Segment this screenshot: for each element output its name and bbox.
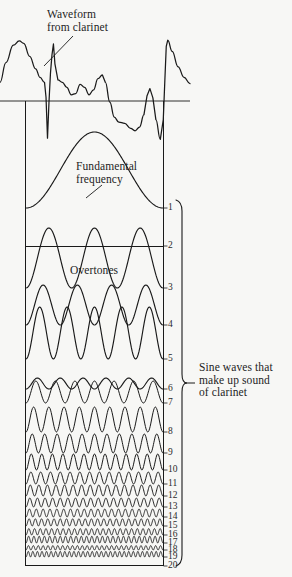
harmonic-wave-13 <box>26 498 163 507</box>
clarinet-harmonics-figure: Waveform from clarinet Fundamental frequ… <box>0 0 292 577</box>
overtones-annotation-label: Overtones <box>70 264 118 277</box>
harmonic-wave-7 <box>26 381 163 403</box>
fundamental-annotation-label: Fundamental frequency <box>76 160 137 185</box>
harmonic-wave-12 <box>26 485 163 496</box>
harmonic-wave-6 <box>26 378 163 389</box>
harmonic-number-1: 1 <box>168 202 173 212</box>
harmonic-number-4: 4 <box>168 319 173 329</box>
harmonic-wave-19 <box>26 551 163 557</box>
harmonic-number-13: 13 <box>168 501 178 511</box>
harmonic-wave-11 <box>26 472 163 484</box>
harmonic-wave-14 <box>26 509 163 517</box>
fundamental-leader-line <box>86 185 102 198</box>
harmonic-wave-9 <box>26 434 163 453</box>
waveform-leader-line <box>44 36 73 66</box>
harmonic-number-7: 7 <box>168 397 173 407</box>
harmonic-number-2: 2 <box>168 240 173 250</box>
harmonic-number-8: 8 <box>168 426 173 436</box>
harmonic-wave-8 <box>26 407 163 432</box>
sine-waves-annotation-label: Sine waves that make up sound of clarine… <box>199 361 273 399</box>
harmonic-wave-17 <box>26 536 163 543</box>
clarinet-waveform-path <box>0 40 190 139</box>
harmonic-number-11: 11 <box>168 478 177 488</box>
harmonic-number-5: 5 <box>168 353 173 363</box>
harmonic-wave-15 <box>26 519 163 526</box>
harmonic-wave-4 <box>26 285 163 325</box>
harmonic-number-6: 6 <box>168 383 173 393</box>
harmonic-wave-16 <box>26 529 163 535</box>
harmonic-number-3: 3 <box>168 282 173 292</box>
harmonic-number-12: 12 <box>168 490 178 500</box>
figure-canvas <box>0 0 292 577</box>
harmonic-wave-3 <box>26 228 163 288</box>
harmonic-wave-18 <box>26 546 163 550</box>
harmonic-number-9: 9 <box>168 447 173 457</box>
harmonic-wave-10 <box>26 454 163 470</box>
waveform-annotation-label: Waveform from clarinet <box>47 8 108 33</box>
composite-waveform-group <box>0 40 190 139</box>
harmonic-number-20: 20 <box>168 560 178 570</box>
sine-waves-brace <box>176 200 195 566</box>
harmonic-wave-5 <box>26 307 163 359</box>
harmonic-series-group <box>26 132 168 566</box>
harmonic-number-10: 10 <box>168 464 178 474</box>
